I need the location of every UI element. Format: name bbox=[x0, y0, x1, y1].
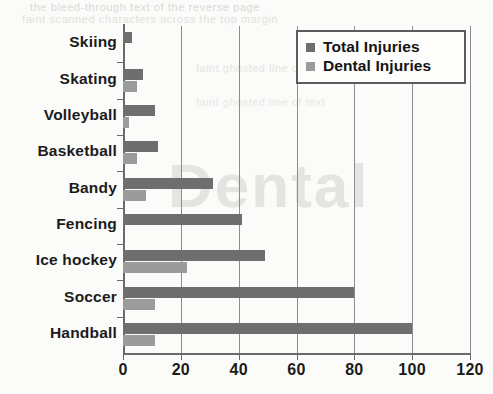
y-axis-label-slot: Volleyball bbox=[0, 106, 117, 124]
bar-skating-total bbox=[123, 69, 143, 80]
y-axis-label-slot: Soccer bbox=[0, 288, 117, 306]
bar-volleyball-total bbox=[123, 105, 155, 116]
y-axis-label-fencing: Fencing bbox=[56, 215, 117, 232]
y-axis-label-slot: Skiing bbox=[0, 33, 117, 51]
bar-fencing-total bbox=[123, 214, 242, 225]
y-axis-label-ice-hockey: Ice hockey bbox=[36, 251, 117, 268]
bar-soccer-total bbox=[123, 287, 354, 298]
y-axis-label-slot: Handball bbox=[0, 324, 117, 342]
x-tick-label-120: 120 bbox=[448, 361, 492, 379]
x-tick-label-60: 60 bbox=[275, 361, 319, 379]
y-axis-label-slot: Skating bbox=[0, 70, 117, 88]
bar-bandy-dental bbox=[123, 190, 146, 201]
y-axis-label-bandy: Bandy bbox=[69, 179, 117, 196]
y-axis-label-skating: Skating bbox=[60, 70, 117, 87]
bar-handball-total bbox=[123, 323, 412, 334]
y-axis-label-soccer: Soccer bbox=[64, 288, 117, 305]
legend-swatch-total-injuries bbox=[306, 43, 315, 52]
injuries-bar-chart: SkiingSkatingVolleyballBasketballBandyFe… bbox=[0, 0, 493, 394]
legend-item-total-injuries: Total Injuries bbox=[306, 38, 456, 56]
bar-skiing-total bbox=[123, 32, 132, 43]
x-tick-label-0: 0 bbox=[101, 361, 145, 379]
chart-legend: Total Injuries Dental Injuries bbox=[296, 30, 466, 84]
legend-label-total-injuries: Total Injuries bbox=[323, 38, 420, 56]
y-axis-label-volleyball: Volleyball bbox=[44, 106, 117, 123]
gridline-20 bbox=[181, 26, 182, 353]
y-axis-label-handball: Handball bbox=[50, 324, 117, 341]
x-tick-label-80: 80 bbox=[332, 361, 376, 379]
gridline-120 bbox=[470, 26, 471, 353]
x-tick-label-20: 20 bbox=[159, 361, 203, 379]
bar-basketball-dental bbox=[123, 153, 137, 164]
bar-ice-hockey-dental bbox=[123, 262, 187, 273]
x-axis-line bbox=[123, 353, 471, 355]
y-axis-label-slot: Bandy bbox=[0, 179, 117, 197]
y-axis-label-skiing: Skiing bbox=[69, 33, 117, 50]
y-axis-label-slot: Fencing bbox=[0, 215, 117, 233]
bar-skating-dental bbox=[123, 81, 137, 92]
x-tick-label-40: 40 bbox=[217, 361, 261, 379]
y-axis-label-basketball: Basketball bbox=[37, 142, 117, 159]
legend-swatch-dental-injuries bbox=[306, 62, 315, 71]
legend-label-dental-injuries: Dental Injuries bbox=[323, 57, 431, 75]
bar-bandy-total bbox=[123, 178, 213, 189]
bar-basketball-total bbox=[123, 141, 158, 152]
y-axis-label-slot: Basketball bbox=[0, 142, 117, 160]
bar-handball-dental bbox=[123, 335, 155, 346]
bar-soccer-dental bbox=[123, 299, 155, 310]
bar-ice-hockey-total bbox=[123, 250, 265, 261]
gridline-40 bbox=[239, 26, 240, 353]
bar-volleyball-dental bbox=[123, 117, 129, 128]
x-tick-label-100: 100 bbox=[390, 361, 434, 379]
y-axis-label-slot: Ice hockey bbox=[0, 251, 117, 269]
legend-item-dental-injuries: Dental Injuries bbox=[306, 57, 456, 75]
